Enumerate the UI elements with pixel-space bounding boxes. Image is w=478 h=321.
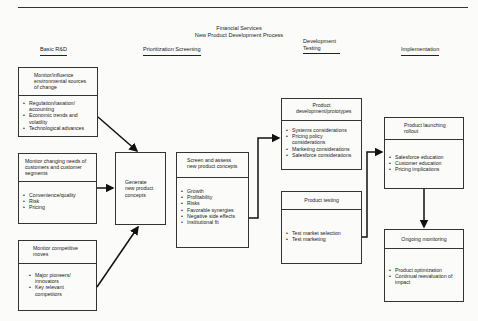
box-list: Product optimization Continual reevaluat… <box>385 249 463 286</box>
box-list: Growth Profitability Risks Favorable syn… <box>177 178 248 225</box>
diagram-title: Financial Services New Product Developme… <box>0 25 478 38</box>
phase-development-testing: Development Testing <box>303 38 340 54</box>
box-list: Salesforce education Customer education … <box>385 140 463 173</box>
box-list: Convenience/quality Risk Pricing <box>19 182 96 211</box>
list-item: Regulation/taxation/ accounting <box>29 100 93 112</box>
list-item: Salesforce considerations <box>292 152 357 158</box>
list-item: Continual reevaluation of impact <box>395 273 459 285</box>
list-item: Major pioneers/ innovators <box>35 272 92 284</box>
box-header: Monitor/influence environmental sources … <box>19 68 97 96</box>
list-item: Institutional fit <box>187 219 244 225</box>
arrow-competitive-to-generate <box>97 227 138 287</box>
box-list: Test market selection Test marketing <box>282 210 361 242</box>
box-header: Generate new product concepts <box>125 179 156 198</box>
title-line-2: New Product Development Process <box>0 32 478 39</box>
box-header: Product development/prototypes <box>282 99 361 121</box>
phase-implementation: Implementation <box>401 46 439 56</box>
box-monitor-customers: Monitor changing needs of customers and … <box>18 153 97 224</box>
box-product-development: Product development/prototypes Systems c… <box>281 98 362 170</box>
list-item: Economic trends and volatility <box>29 112 93 124</box>
box-header: Product testing <box>282 192 361 210</box>
box-screen-assess: Screen and assess new product concepts G… <box>176 152 249 248</box>
box-header: Screen and assess new product concepts <box>177 153 248 178</box>
arrow-screen-to-prototypes <box>249 138 279 218</box>
list-item: Pricing <box>29 204 92 210</box>
box-header: Ongoing monitoring <box>385 230 463 249</box>
box-generate-concepts: Generate new product concepts <box>115 152 166 225</box>
box-list: Major pioneers/ innovators Key relevant … <box>19 264 96 297</box>
phase-basic-rd: Basic R&D <box>40 46 67 56</box>
box-header: Monitor changing needs of customers and … <box>19 154 96 182</box>
box-product-testing: Product testing Test market selection Te… <box>281 191 362 264</box>
arrow-environment-to-generate <box>98 117 137 151</box>
list-item: Technological advances <box>29 125 93 131</box>
list-item: Test marketing <box>292 236 357 242</box>
top-rule <box>18 7 468 8</box>
list-item: Pricing policy considerations <box>292 133 357 145</box>
box-ongoing-monitoring: Ongoing monitoring Product optimization … <box>384 229 464 302</box>
box-product-launching: Product launching rollout Salesforce edu… <box>384 117 464 189</box>
phase-prioritization-screening: Prioritization Screening <box>143 46 201 56</box>
box-header: Monitor competitive moves <box>19 241 96 264</box>
box-header: Product launching rollout <box>385 118 463 140</box>
arrow-testing-to-launching <box>362 152 382 237</box>
box-monitor-competitive: Monitor competitive moves Major pioneers… <box>18 240 97 311</box>
box-monitor-environment: Monitor/influence environmental sources … <box>18 67 98 137</box>
box-list: Systems considerations Pricing policy co… <box>282 121 361 158</box>
list-item: Pricing implications <box>395 166 459 172</box>
box-list: Regulation/taxation/ accounting Economic… <box>19 96 97 131</box>
list-item: Key relevant competitors <box>35 284 92 296</box>
